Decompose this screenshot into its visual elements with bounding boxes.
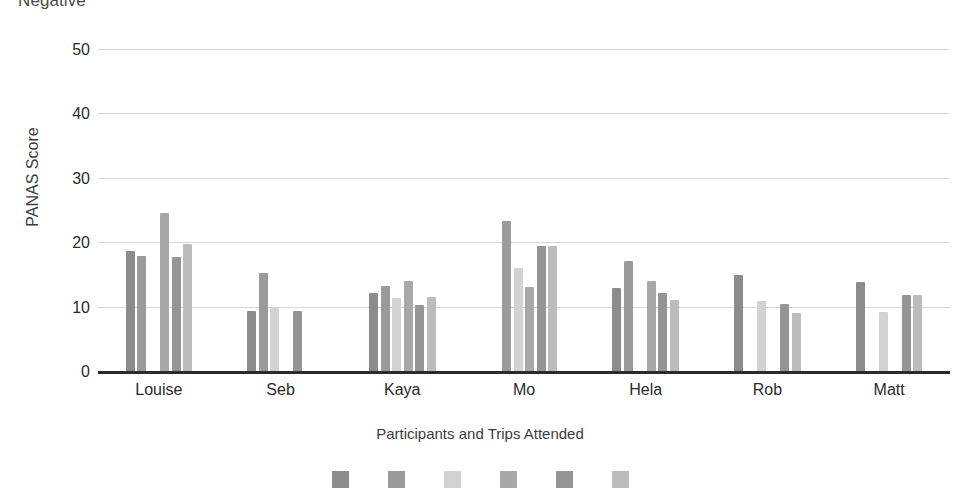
y-tick-label: 50 <box>30 42 90 58</box>
bar <box>247 311 256 372</box>
category-label: Mo <box>463 381 585 399</box>
bar <box>780 304 789 372</box>
bar-group <box>247 37 314 372</box>
chart-title: Negative <box>18 0 86 11</box>
bar <box>913 295 922 372</box>
bar <box>415 305 424 372</box>
bar <box>293 311 302 372</box>
bar <box>879 312 888 372</box>
y-tick-label: 0 <box>30 364 90 380</box>
bar-group <box>734 37 801 372</box>
bar <box>172 257 181 372</box>
plot-area <box>98 37 950 372</box>
legend-item[interactable] <box>556 471 573 488</box>
bar <box>502 221 511 372</box>
legend-item[interactable] <box>332 471 349 488</box>
y-tick-label: 10 <box>30 300 90 316</box>
bar <box>647 281 656 372</box>
bar <box>757 301 766 373</box>
bar <box>183 244 192 372</box>
legend-swatch <box>388 471 405 488</box>
y-tick-label: 30 <box>30 171 90 187</box>
bar <box>514 268 523 372</box>
bar <box>548 246 557 372</box>
bar <box>392 298 401 372</box>
bar <box>658 293 667 372</box>
bar-group <box>369 37 436 372</box>
bar-group <box>612 37 679 372</box>
bar <box>160 213 169 372</box>
y-tick-label: 20 <box>30 235 90 251</box>
category-label: Louise <box>98 381 220 399</box>
bar <box>369 293 378 372</box>
negative-panas-bar-chart: Negative PANAS Score 01020304050 LouiseS… <box>0 0 960 495</box>
legend-item[interactable] <box>612 471 629 488</box>
legend-swatch <box>444 471 461 488</box>
bar <box>381 286 390 372</box>
legend-swatch <box>332 471 349 488</box>
bar <box>427 297 436 372</box>
bar <box>259 273 268 372</box>
legend <box>0 471 960 488</box>
category-label: Matt <box>828 381 950 399</box>
legend-swatch <box>612 471 629 488</box>
bar <box>856 282 865 372</box>
bar <box>670 300 679 372</box>
legend-item[interactable] <box>500 471 517 488</box>
bar <box>137 256 146 372</box>
legend-item[interactable] <box>444 471 461 488</box>
x-axis-title: Participants and Trips Attended <box>0 425 960 442</box>
category-label: Seb <box>220 381 342 399</box>
bar <box>612 288 621 372</box>
bar-group <box>856 37 923 372</box>
bar <box>126 251 135 372</box>
bar-group <box>491 37 558 372</box>
bar-group <box>126 37 193 372</box>
y-tick-label: 40 <box>30 106 90 122</box>
category-label: Kaya <box>341 381 463 399</box>
legend-swatch <box>556 471 573 488</box>
legend-swatch <box>500 471 517 488</box>
bar <box>270 308 279 372</box>
bar <box>734 275 743 372</box>
bar <box>537 246 546 372</box>
bar <box>902 295 911 372</box>
bar <box>792 313 801 372</box>
bar <box>404 281 413 372</box>
category-label: Hela <box>585 381 707 399</box>
category-label: Rob <box>707 381 829 399</box>
x-axis-line <box>98 371 950 374</box>
legend-item[interactable] <box>388 471 405 488</box>
bar <box>624 261 633 372</box>
bar <box>525 287 534 372</box>
